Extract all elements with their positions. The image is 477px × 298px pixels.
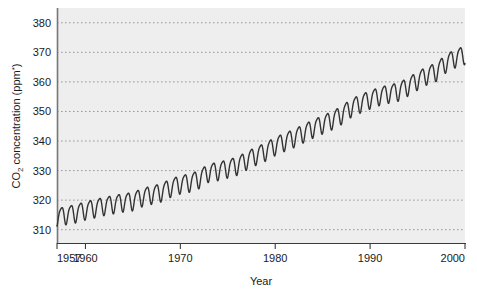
- y-tick-label-320: 320: [33, 194, 51, 206]
- y-tick-label-360: 360: [33, 76, 51, 88]
- y-tick-label-380: 380: [33, 17, 51, 29]
- y-tick-label-370: 370: [33, 46, 51, 58]
- y-tick-label-350: 350: [33, 105, 51, 117]
- y-tick-label-330: 330: [33, 165, 51, 177]
- y-axis-title-main: CO: [10, 172, 22, 189]
- y-tick-label-310: 310: [33, 224, 51, 236]
- x-axis-title-group: Year: [250, 275, 273, 287]
- plot-area-background-group: [57, 8, 465, 243]
- x-tick-label-1990: 1990: [358, 252, 382, 264]
- x-tick-label-1960: 1960: [73, 252, 97, 264]
- y-axis-title: CO2 concentration (ppm*): [10, 64, 26, 189]
- x-axis-tick-labels-group: 195719601970198019902000: [57, 252, 465, 264]
- x-tick-label-2000: 2000: [441, 252, 465, 264]
- y-axis-title-close-paren: ): [10, 64, 22, 68]
- plot-area-background: [57, 8, 465, 243]
- y-axis-title-rest: concentration (ppm: [10, 70, 22, 167]
- y-axis-title-group: CO2 concentration (ppm*): [10, 64, 26, 189]
- y-axis-tick-labels-group: 380370360350340330320310: [33, 17, 51, 236]
- chart-svg: 380370360350340330320310 195719601970198…: [0, 0, 477, 298]
- co2-concentration-chart: 380370360350340330320310 195719601970198…: [0, 0, 477, 298]
- y-tick-label-340: 340: [33, 135, 51, 147]
- x-tick-label-1970: 1970: [168, 252, 192, 264]
- x-tick-label-1980: 1980: [263, 252, 287, 264]
- x-axis-title: Year: [250, 275, 273, 287]
